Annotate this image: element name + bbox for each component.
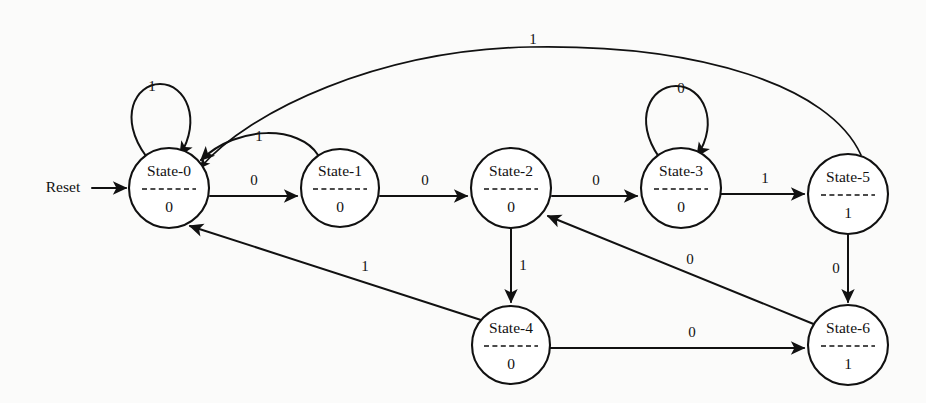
state-node-state-0[interactable]: State-0 0 — [129, 148, 209, 228]
state-0-circle[interactable] — [129, 148, 209, 228]
state-node-state-5[interactable]: State-5 1 — [808, 154, 888, 234]
label-state-2-to-state-3: 0 — [592, 172, 600, 188]
state-node-state-4[interactable]: State-4 0 — [472, 306, 550, 384]
state-diagram-canvas: State-0 0 State-1 0 State-2 0 State-3 0 — [0, 0, 926, 403]
label-state-6-to-state-2: 0 — [686, 251, 694, 267]
label-state-3-self-loop: 0 — [677, 80, 685, 96]
label-state-0-self-loop: 1 — [148, 78, 156, 94]
label-state-1-to-state-0: 1 — [255, 128, 263, 144]
state-5-label: State-5 — [826, 168, 870, 185]
state-6-output: 1 — [844, 355, 852, 372]
transition-state-0-self-loop — [132, 84, 191, 156]
label-state-5-to-state-6: 0 — [832, 260, 840, 276]
label-state-4-to-state-6: 0 — [688, 324, 696, 340]
state-1-output: 0 — [336, 198, 344, 215]
label-state-2-to-state-4: 1 — [519, 257, 527, 273]
label-state-3-to-state-5: 1 — [761, 170, 769, 186]
state-0-label: State-0 — [147, 162, 191, 179]
state-4-label: State-4 — [489, 319, 533, 336]
transition-state-3-self-loop — [646, 86, 708, 157]
state-4-output: 0 — [507, 355, 515, 372]
state-2-label: State-2 — [489, 162, 533, 179]
reset-label: Reset — [46, 178, 81, 195]
transition-state-6-to-state-2 — [548, 216, 816, 325]
transition-state-5-to-state-0 — [200, 47, 861, 168]
transition-state-4-to-state-0 — [190, 226, 481, 320]
state-node-state-3[interactable]: State-3 0 — [641, 148, 721, 228]
state-2-output: 0 — [507, 198, 515, 215]
state-5-circle[interactable] — [808, 154, 888, 234]
state-6-label: State-6 — [826, 319, 870, 336]
label-state-4-to-state-0: 1 — [361, 258, 369, 274]
state-3-label: State-3 — [659, 162, 703, 179]
state-node-state-6[interactable]: State-6 1 — [808, 305, 888, 385]
label-state-5-to-state-0: 1 — [529, 31, 537, 47]
state-3-output: 0 — [677, 198, 685, 215]
state-5-output: 1 — [844, 204, 852, 221]
state-transition-diagram: State-0 0 State-1 0 State-2 0 State-3 0 — [0, 0, 926, 403]
state-6-circle[interactable] — [808, 305, 888, 385]
state-node-state-2[interactable]: State-2 0 — [471, 148, 551, 228]
label-state-0-to-state-1: 0 — [250, 172, 258, 188]
state-3-circle[interactable] — [641, 148, 721, 228]
state-1-label: State-1 — [318, 162, 362, 179]
state-node-state-1[interactable]: State-1 0 — [301, 149, 379, 227]
state-0-output: 0 — [165, 198, 173, 215]
state-2-circle[interactable] — [471, 148, 551, 228]
label-state-1-to-state-2: 0 — [421, 172, 429, 188]
